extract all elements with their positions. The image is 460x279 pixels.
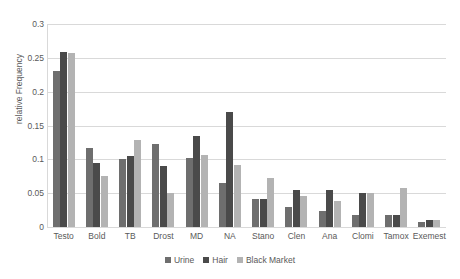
legend-swatch-icon	[165, 257, 171, 263]
bar	[193, 136, 200, 227]
bar	[252, 199, 259, 227]
bar	[68, 53, 75, 227]
bar-group	[346, 24, 379, 227]
y-tick-label: 0.25	[4, 54, 44, 63]
bar	[93, 163, 100, 227]
x-tick-label: NA	[213, 231, 246, 241]
bar-chart: 00.050.10.150.20.250.3 relative Frequenc…	[0, 0, 460, 279]
gridline	[47, 227, 446, 228]
legend-swatch-icon	[203, 257, 209, 263]
bar-group	[413, 24, 446, 227]
bar	[293, 190, 300, 227]
chart-legend: UrineHairBlack Market	[0, 255, 460, 265]
bar	[319, 211, 326, 227]
bar	[152, 144, 159, 227]
legend-label: Black Market	[246, 255, 295, 265]
legend-swatch-icon	[237, 257, 243, 263]
bar	[53, 71, 60, 227]
bar-group	[380, 24, 413, 227]
bar	[186, 158, 193, 227]
x-tick-label: Stano	[247, 231, 280, 241]
bar	[352, 215, 359, 227]
bar-group	[313, 24, 346, 227]
bar	[285, 207, 292, 227]
bar	[86, 148, 93, 227]
y-axis-title: relative Frequency	[14, 29, 24, 149]
bar	[400, 188, 407, 227]
bar	[426, 220, 433, 227]
bar	[418, 222, 425, 227]
y-tick-label: 0.2	[4, 88, 44, 97]
legend-label: Hair	[212, 255, 228, 265]
bar	[134, 140, 141, 227]
x-tick-label: TB	[114, 231, 147, 241]
bar-group	[80, 24, 113, 227]
bar-group	[147, 24, 180, 227]
bar-group	[180, 24, 213, 227]
bar	[127, 156, 134, 227]
bar	[433, 220, 440, 227]
legend-item[interactable]: Black Market	[237, 255, 295, 265]
bar	[160, 166, 167, 227]
bar	[267, 178, 274, 227]
x-tick-label: MD	[180, 231, 213, 241]
bar	[119, 159, 126, 227]
bar	[367, 193, 374, 227]
y-tick-label: 0.1	[4, 155, 44, 164]
x-tick-label: Bold	[80, 231, 113, 241]
x-tick-label: Clomi	[346, 231, 379, 241]
plot-area	[47, 24, 446, 227]
x-tick-label: Ana	[313, 231, 346, 241]
bar	[260, 199, 267, 227]
y-tick-label: 0.15	[4, 122, 44, 131]
bar-group	[47, 24, 80, 227]
y-tick-label: 0.05	[4, 189, 44, 198]
bar	[334, 201, 341, 227]
bar	[234, 165, 241, 227]
x-tick-label: Testo	[47, 231, 80, 241]
bar	[385, 215, 392, 227]
bar	[101, 176, 108, 227]
bar-group	[247, 24, 280, 227]
bar	[300, 196, 307, 227]
bar-group	[280, 24, 313, 227]
legend-label: Urine	[174, 255, 194, 265]
legend-item[interactable]: Hair	[203, 255, 228, 265]
bar	[326, 190, 333, 227]
legend-item[interactable]: Urine	[165, 255, 194, 265]
x-tick-label: Clen	[280, 231, 313, 241]
x-tick-label: Exemest	[413, 231, 446, 241]
bar	[219, 183, 226, 227]
bar	[393, 215, 400, 227]
bar	[60, 52, 67, 227]
y-tick-label: 0.3	[4, 20, 44, 29]
bar	[201, 155, 208, 227]
bar	[226, 112, 233, 227]
x-tick-label: Tamox	[380, 231, 413, 241]
bar-group	[114, 24, 147, 227]
bar-group	[213, 24, 246, 227]
bar	[167, 193, 174, 228]
x-tick-label: Drost	[147, 231, 180, 241]
y-tick-label: 0	[4, 223, 44, 232]
bar	[359, 193, 366, 227]
